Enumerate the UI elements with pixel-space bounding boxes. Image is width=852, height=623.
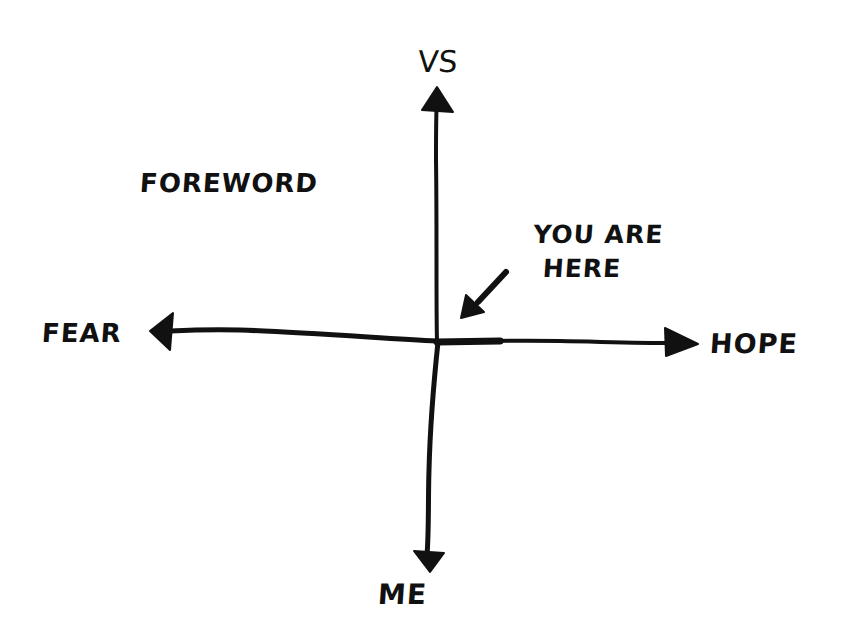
arrowhead-left-icon [150,313,173,350]
arrowhead-up-icon [422,87,453,112]
horizontal-axis-left [170,330,437,341]
arrowhead-down-icon [414,551,444,572]
axes-drawing [0,0,852,623]
arrowhead-right-icon [665,328,698,356]
axis-label-bottom: ME [377,578,428,611]
foreword-label: FOREWORD [139,168,319,198]
vertical-axis-upper [436,100,437,342]
you-are-here-line-1: YOU ARE [532,218,665,252]
axis-label-top: VS [417,44,459,79]
axis-label-left: FEAR [41,318,123,348]
vertical-axis-lower [427,342,438,555]
you-are-here-label: YOU ARE HERE [530,218,665,286]
axis-label-right: HOPE [709,328,799,359]
you-are-here-arrow-shaft [478,272,506,302]
you-are-here-line-2: HERE [530,252,663,286]
